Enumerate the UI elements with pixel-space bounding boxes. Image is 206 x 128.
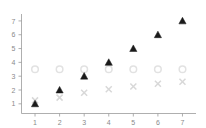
data-point-circle — [32, 66, 39, 73]
y-tick-label: 4 — [12, 59, 16, 66]
x-tick-label: 4 — [107, 119, 111, 126]
data-point-triangle — [56, 86, 63, 93]
y-tick-label: 6 — [12, 31, 16, 38]
x-tick-label: 2 — [58, 119, 62, 126]
data-point-triangle — [179, 17, 186, 24]
data-point-triangle — [130, 45, 137, 52]
plot-area: 12345671234567 — [0, 0, 206, 128]
data-point-circle — [105, 66, 112, 73]
y-tick-label: 3 — [12, 73, 16, 80]
data-point-circle — [130, 66, 137, 73]
data-point-circle — [81, 66, 88, 73]
x-tick-label: 6 — [156, 119, 160, 126]
x-tick-label: 1 — [33, 119, 37, 126]
data-point-circle — [179, 66, 186, 73]
data-point-circle — [56, 66, 63, 73]
x-tick-label: 5 — [131, 119, 135, 126]
x-tick-label: 3 — [82, 119, 86, 126]
series-open-circle-series — [32, 66, 186, 73]
x-tick-label: 7 — [181, 119, 185, 126]
data-point-circle — [155, 66, 162, 73]
scatter-chart: 12345671234567 — [0, 0, 206, 128]
data-point-triangle — [81, 73, 88, 80]
series-filled-triangle-series — [31, 17, 186, 106]
y-tick-label: 1 — [12, 100, 16, 107]
y-tick-label: 2 — [12, 87, 16, 94]
y-tick-label: 7 — [12, 18, 16, 25]
data-point-triangle — [105, 59, 112, 66]
y-tick-label: 5 — [12, 45, 16, 52]
series-cross-series — [32, 79, 185, 104]
data-point-triangle — [154, 31, 161, 38]
